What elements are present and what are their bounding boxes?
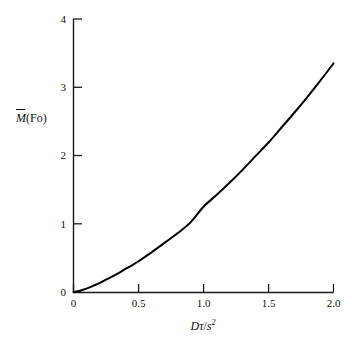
y-tick-label-4: 4 [61, 14, 67, 25]
x-tick-label-1-0: 1.0 [197, 298, 211, 309]
x-axis-ticks [74, 284, 334, 293]
x-axis-title: Dτ/s2 [190, 316, 215, 333]
y-tick-label-3: 3 [61, 82, 67, 93]
x-tick-label-1-5: 1.5 [262, 298, 276, 309]
y-axis-title: M(Fo) [16, 111, 47, 125]
x-axis-title-exponent: 2 [211, 318, 215, 327]
plot-area [0, 0, 363, 344]
x-tick-label-0-5: 0.5 [132, 298, 146, 309]
y-tick-label-1: 1 [61, 219, 67, 230]
x-tick-label-0: 0 [71, 298, 77, 309]
y-axis-title-symbol: M [16, 111, 26, 125]
chart-figure: 4 3 2 1 0 0 0.5 1.0 1.5 2.0 M(Fo) Dτ/s2 [0, 0, 363, 344]
y-axis-title-suffix: (Fo) [26, 111, 47, 125]
y-tick-label-0: 0 [61, 287, 67, 298]
y-tick-label-2: 2 [61, 150, 67, 161]
x-tick-label-2-0: 2.0 [327, 298, 341, 309]
x-axis-title-d: D [190, 319, 199, 333]
data-curve-series-1 [74, 63, 334, 292]
y-axis-ticks [74, 19, 83, 292]
